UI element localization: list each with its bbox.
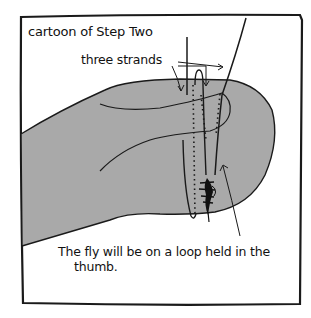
- panel-title: cartoon of Step Two: [28, 24, 153, 39]
- caption-line-2: thumb.: [58, 259, 298, 274]
- caption: The fly will be on a loop held in the th…: [58, 244, 298, 274]
- strands-annotation: three strands: [81, 52, 162, 67]
- cartoon-panel: cartoon of Step Two three strands The fl…: [0, 0, 311, 318]
- caption-line-1: The fly will be on a loop held in the: [58, 244, 270, 259]
